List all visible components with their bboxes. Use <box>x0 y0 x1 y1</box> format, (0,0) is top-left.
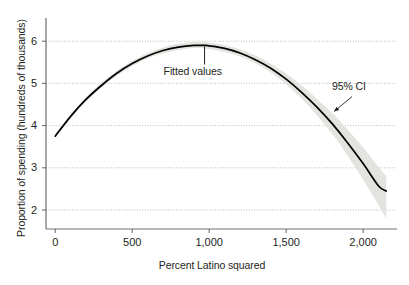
chart-figure: Proportion of spending (hundreds of thou… <box>0 0 409 285</box>
y-tick-label: 3 <box>21 162 37 173</box>
y-tick-label: 5 <box>21 78 37 89</box>
x-axis-ticks <box>55 229 363 233</box>
y-tick-label: 4 <box>21 120 37 131</box>
ci-arrow-icon <box>334 97 352 112</box>
x-tick-label: 0 <box>32 237 78 248</box>
x-tick-label: 2,000 <box>340 237 386 248</box>
y-tick-label: 6 <box>21 36 37 47</box>
x-tick-label: 1,000 <box>186 237 232 248</box>
annotation-95-ci: 95% CI <box>332 80 366 92</box>
y-tick-label: 2 <box>21 205 37 216</box>
x-tick-label: 1,500 <box>263 237 309 248</box>
x-tick-label: 500 <box>109 237 155 248</box>
annotation-fitted-values: Fitted values <box>164 65 222 77</box>
